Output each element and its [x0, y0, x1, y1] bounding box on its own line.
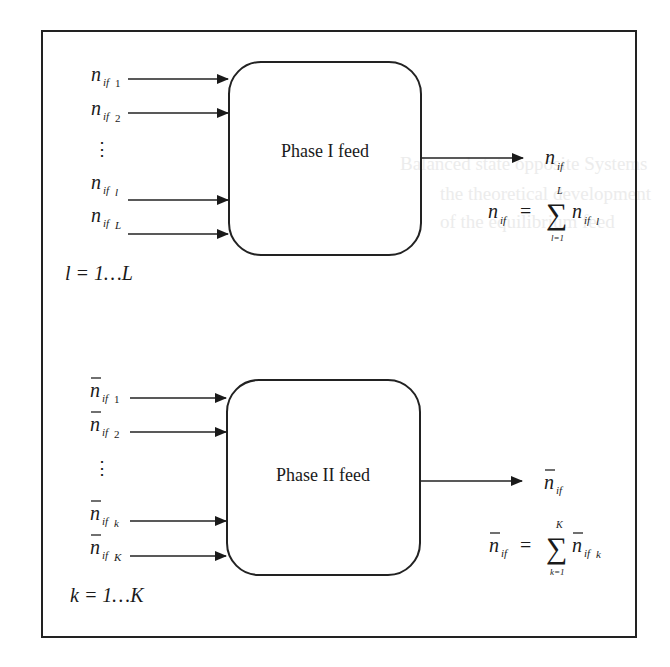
phase2-index-range: k = 1…K — [70, 584, 145, 606]
svg-text:n: n — [572, 200, 582, 222]
svg-text:L: L — [556, 185, 563, 196]
svg-text:n: n — [488, 200, 498, 222]
phase1-input-label-L: n if L — [91, 204, 121, 231]
phase1-group: Phase I feed n if 1 n if 2 ⋮ n if l n if… — [65, 62, 599, 284]
feed-diagram: Phase I feed n if 1 n if 2 ⋮ n if l n if… — [0, 0, 670, 667]
phase2-input-label-1: n if 1 — [90, 378, 120, 405]
phase1-ellipsis: ⋮ — [93, 139, 111, 159]
svg-text:if: if — [103, 110, 111, 122]
phase1-index-range: l = 1…L — [65, 262, 133, 284]
phase1-input-label-1: n if 1 — [91, 63, 121, 89]
svg-text:K: K — [113, 551, 122, 563]
phase1-output-label: n if — [545, 146, 565, 172]
svg-text:1: 1 — [114, 393, 120, 405]
svg-text:n: n — [90, 413, 100, 435]
svg-text:if: if — [103, 76, 111, 88]
svg-text:if: if — [102, 549, 110, 561]
svg-text:2: 2 — [115, 112, 121, 124]
svg-text:if: if — [103, 217, 111, 229]
svg-text:n: n — [91, 204, 101, 226]
svg-text:∑: ∑ — [546, 531, 567, 565]
svg-text:if: if — [500, 214, 508, 226]
svg-text:k: k — [596, 548, 602, 560]
svg-text:if: if — [556, 484, 564, 496]
svg-text:if: if — [102, 515, 110, 527]
svg-text:n: n — [91, 63, 101, 85]
svg-text:∑: ∑ — [546, 197, 567, 231]
svg-text:n: n — [572, 534, 582, 556]
svg-text:if: if — [557, 160, 565, 172]
phase2-feed-label: Phase II feed — [276, 465, 370, 485]
svg-text:if: if — [501, 547, 509, 559]
phase1-feed-label: Phase I feed — [281, 141, 369, 161]
svg-text:k: k — [114, 517, 120, 529]
svg-text:1: 1 — [115, 77, 121, 89]
svg-text:L: L — [114, 219, 121, 231]
svg-text:n: n — [90, 379, 100, 401]
phase1-input-label-l: n if l — [91, 171, 118, 198]
svg-text:if: if — [102, 426, 110, 438]
svg-text:l: l — [115, 186, 118, 198]
svg-text:k=1: k=1 — [550, 567, 565, 577]
phase2-input-label-K: n if K — [90, 535, 122, 563]
svg-text:n: n — [91, 171, 101, 193]
svg-text:n: n — [90, 502, 100, 524]
svg-text:n: n — [544, 471, 554, 493]
phase2-output-label: n if — [544, 470, 564, 496]
svg-text:if: if — [103, 184, 111, 196]
svg-text:=: = — [520, 200, 531, 222]
phase2-group: Phase II feed n if 1 n if 2 ⋮ n if k n — [70, 378, 602, 606]
phase2-sum-equation: n if = ∑ K k=1 n if k — [489, 519, 602, 577]
phase2-input-label-k: n if k — [90, 501, 120, 529]
svg-text:2: 2 — [114, 428, 120, 440]
phase2-ellipsis: ⋮ — [93, 458, 111, 478]
svg-text:if: if — [584, 547, 592, 559]
svg-text:if: if — [102, 392, 110, 404]
phase1-input-label-2: n if 2 — [91, 97, 121, 124]
svg-text:l=1: l=1 — [551, 233, 564, 243]
svg-text:n: n — [91, 97, 101, 119]
svg-text:if: if — [584, 214, 592, 226]
svg-text:l: l — [596, 215, 599, 227]
phase2-input-label-2: n if 2 — [90, 412, 120, 440]
svg-text:K: K — [555, 519, 564, 530]
phase1-sum-equation: n if = ∑ L l=1 n if l — [488, 185, 599, 243]
svg-text:n: n — [90, 536, 100, 558]
svg-text:n: n — [545, 146, 555, 168]
svg-text:=: = — [520, 534, 531, 556]
svg-text:n: n — [489, 534, 499, 556]
